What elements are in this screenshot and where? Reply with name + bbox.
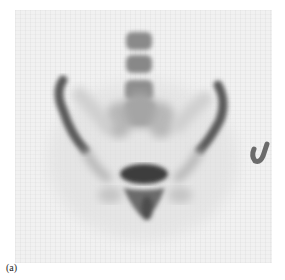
figure-caption: (a) xyxy=(6,262,17,273)
scintigraphy-image xyxy=(15,10,272,263)
pelvis-scan-graphic xyxy=(15,10,272,263)
marker-icon xyxy=(253,144,267,161)
bladder xyxy=(120,164,168,184)
